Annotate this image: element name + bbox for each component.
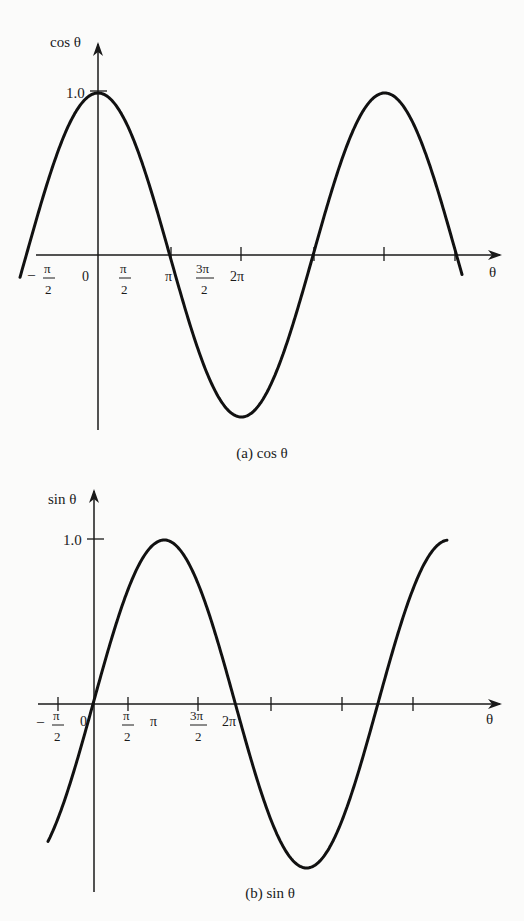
- tick-minus-pi-half-den: 2: [54, 729, 61, 744]
- tick-minus-pi-half-den: 2: [45, 282, 52, 297]
- tick-3pi-half-num: 3π: [196, 261, 210, 276]
- tick-3pi-half-den: 2: [195, 729, 202, 744]
- sin-y-axis-label: sin θ: [48, 491, 76, 507]
- tick-3pi-half-num: 3π: [190, 708, 204, 723]
- tick-pi: π: [150, 714, 157, 729]
- cos-x-axis-label: θ: [489, 264, 496, 280]
- tick-minus-pi-half-num: π: [53, 708, 60, 723]
- tick-pi: π: [165, 269, 172, 284]
- sin-caption: (b) sin θ: [245, 885, 295, 902]
- tick-pi-half-num: π: [123, 708, 130, 723]
- sin-x-tick-labels: – π 2 0 π 2 π 3π 2 2π: [36, 708, 236, 744]
- cos-y-axis-label: cos θ: [50, 34, 81, 50]
- tick-2pi: 2π: [222, 714, 236, 729]
- tick-zero: 0: [82, 269, 89, 284]
- tick-pi-half-num: π: [120, 261, 127, 276]
- tick-pi-half-den: 2: [121, 282, 128, 297]
- tick-minus-pi-half: –: [27, 267, 36, 282]
- tick-minus-pi-half: –: [36, 714, 45, 729]
- sin-x-axis-label: θ: [486, 711, 493, 727]
- tick-pi-half-den: 2: [124, 729, 131, 744]
- sin-plot: 1.0 sin θ – π 2 0 π 2 π 3π 2 2π θ: [36, 491, 500, 902]
- tick-3pi-half-den: 2: [201, 282, 208, 297]
- cos-plot: 1.0 cos θ – π 2 0 π 2 π 3π 2 2π: [20, 34, 500, 462]
- figure: 1.0 cos θ – π 2 0 π 2 π 3π 2 2π: [0, 0, 524, 921]
- cos-x-tick-labels: – π 2 0 π 2 π 3π 2 2π: [27, 261, 244, 297]
- tick-minus-pi-half-num: π: [44, 261, 51, 276]
- tick-2pi: 2π: [230, 269, 244, 284]
- cos-y-tick-label: 1.0: [66, 85, 85, 101]
- sin-y-tick-label: 1.0: [63, 532, 82, 548]
- cos-caption: (a) cos θ: [236, 445, 287, 462]
